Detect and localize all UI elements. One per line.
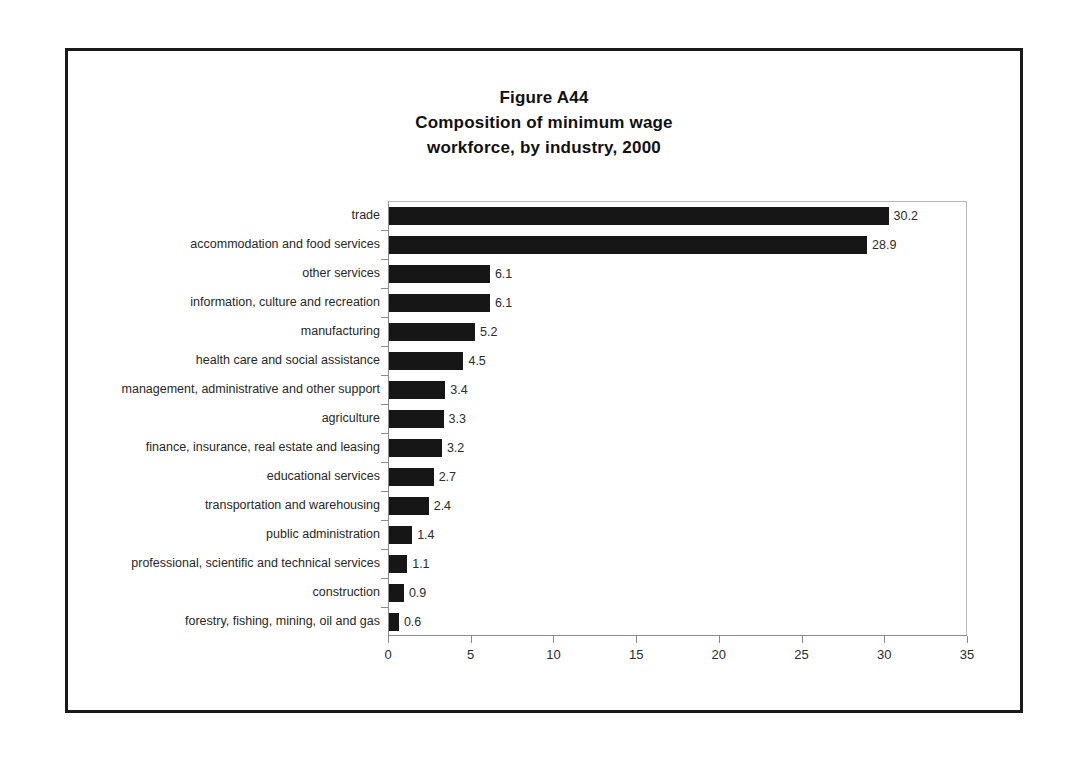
bar bbox=[389, 352, 463, 370]
category-tick bbox=[381, 317, 388, 318]
bar-row: 3.2 bbox=[389, 434, 966, 463]
category-label: professional, scientific and technical s… bbox=[131, 549, 380, 578]
x-axis-label: 15 bbox=[629, 647, 643, 662]
x-axis-tick bbox=[967, 636, 968, 643]
category-label: other services bbox=[302, 259, 380, 288]
bar-value-label: 3.4 bbox=[450, 381, 467, 399]
bar bbox=[389, 410, 444, 428]
bar-value-label: 2.4 bbox=[434, 497, 451, 515]
bar-row: 5.2 bbox=[389, 318, 966, 347]
x-axis-tick bbox=[719, 636, 720, 643]
category-label: information, culture and recreation bbox=[190, 288, 380, 317]
bar-value-label: 3.2 bbox=[447, 439, 464, 457]
bar bbox=[389, 468, 434, 486]
bar-value-label: 0.6 bbox=[404, 613, 421, 631]
x-axis-label: 25 bbox=[794, 647, 808, 662]
category-label: management, administrative and other sup… bbox=[122, 375, 380, 404]
bar-value-label: 2.7 bbox=[439, 468, 456, 486]
bar bbox=[389, 294, 490, 312]
category-tick bbox=[381, 433, 388, 434]
category-label: agriculture bbox=[322, 404, 380, 433]
category-tick bbox=[381, 375, 388, 376]
x-axis-tick bbox=[388, 636, 389, 643]
bar-row: 2.7 bbox=[389, 463, 966, 492]
x-axis-label: 35 bbox=[960, 647, 974, 662]
x-axis-tick bbox=[884, 636, 885, 643]
bar bbox=[389, 207, 889, 225]
category-tick bbox=[381, 520, 388, 521]
bar-value-label: 28.9 bbox=[872, 236, 896, 254]
title-line-3: workforce, by industry, 2000 bbox=[68, 135, 1020, 160]
bar-row: 4.5 bbox=[389, 347, 966, 376]
bar bbox=[389, 584, 404, 602]
bar-value-label: 1.4 bbox=[417, 526, 434, 544]
bar-value-label: 6.1 bbox=[495, 265, 512, 283]
bar-value-label: 0.9 bbox=[409, 584, 426, 602]
bar bbox=[389, 381, 445, 399]
bar bbox=[389, 526, 412, 544]
bar-row: 0.6 bbox=[389, 608, 966, 637]
page-title: Figure A44 Composition of minimum wage w… bbox=[68, 85, 1020, 160]
category-axis: tradeaccommodation and food servicesothe… bbox=[68, 201, 380, 636]
bar-value-label: 1.1 bbox=[412, 555, 429, 573]
bar-row: 0.9 bbox=[389, 579, 966, 608]
x-axis-label: 10 bbox=[546, 647, 560, 662]
x-axis-tick bbox=[553, 636, 554, 643]
category-label: construction bbox=[313, 578, 380, 607]
title-line-2: Composition of minimum wage bbox=[68, 110, 1020, 135]
bar bbox=[389, 439, 442, 457]
title-line-1: Figure A44 bbox=[68, 85, 1020, 110]
bar bbox=[389, 323, 475, 341]
bar-value-label: 6.1 bbox=[495, 294, 512, 312]
x-axis-tick bbox=[802, 636, 803, 643]
bar-row: 1.4 bbox=[389, 521, 966, 550]
bar bbox=[389, 236, 867, 254]
category-label: manufacturing bbox=[301, 317, 380, 346]
category-tick bbox=[381, 491, 388, 492]
bar-value-label: 3.3 bbox=[449, 410, 466, 428]
bar bbox=[389, 555, 407, 573]
category-tick bbox=[381, 230, 388, 231]
plot-area: 30.228.96.16.15.24.53.43.33.22.72.41.41.… bbox=[388, 201, 967, 636]
category-tick bbox=[381, 578, 388, 579]
x-axis-tick bbox=[636, 636, 637, 643]
figure-frame: Figure A44 Composition of minimum wage w… bbox=[65, 48, 1023, 713]
bar-row: 1.1 bbox=[389, 550, 966, 579]
category-tick bbox=[381, 259, 388, 260]
x-axis-label: 30 bbox=[877, 647, 891, 662]
category-tick bbox=[381, 549, 388, 550]
category-tick bbox=[381, 288, 388, 289]
category-label: public administration bbox=[266, 520, 380, 549]
bar-row: 6.1 bbox=[389, 289, 966, 318]
category-label: accommodation and food services bbox=[190, 230, 380, 259]
bar-value-label: 5.2 bbox=[480, 323, 497, 341]
bar-row: 3.3 bbox=[389, 405, 966, 434]
category-label: forestry, fishing, mining, oil and gas bbox=[185, 607, 380, 636]
x-axis-label: 5 bbox=[467, 647, 474, 662]
bar-value-label: 30.2 bbox=[894, 207, 918, 225]
bar-row: 28.9 bbox=[389, 231, 966, 260]
category-label: finance, insurance, real estate and leas… bbox=[146, 433, 380, 462]
x-axis-label: 0 bbox=[384, 647, 391, 662]
category-tick bbox=[381, 462, 388, 463]
bar bbox=[389, 265, 490, 283]
category-tick bbox=[381, 607, 388, 608]
category-label: educational services bbox=[267, 462, 380, 491]
category-label: transportation and warehousing bbox=[205, 491, 380, 520]
bar bbox=[389, 497, 429, 515]
category-tick bbox=[381, 404, 388, 405]
category-tick bbox=[381, 346, 388, 347]
x-axis-label: 20 bbox=[712, 647, 726, 662]
category-label: health care and social assistance bbox=[196, 346, 380, 375]
bar-row: 30.2 bbox=[389, 202, 966, 231]
bar-row: 6.1 bbox=[389, 260, 966, 289]
x-axis-tick bbox=[471, 636, 472, 643]
bar-row: 3.4 bbox=[389, 376, 966, 405]
bar-value-label: 4.5 bbox=[468, 352, 485, 370]
category-label: trade bbox=[352, 201, 381, 230]
bar-row: 2.4 bbox=[389, 492, 966, 521]
bar bbox=[389, 613, 399, 631]
